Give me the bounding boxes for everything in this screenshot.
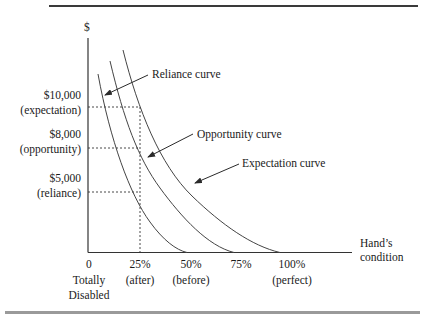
- expectation-arrow: [195, 164, 239, 183]
- y-tick-5000: $5,000 (reliance): [37, 171, 81, 201]
- x-tick-desc: Totally: [69, 273, 110, 289]
- x-tick-0: 0 Totally Disabled: [69, 257, 110, 304]
- reliance-arrow: [105, 75, 148, 95]
- x-tick-desc2: Disabled: [69, 288, 110, 304]
- x-tick-desc: (before): [172, 273, 209, 289]
- x-tick-value: 50%: [172, 257, 209, 273]
- y-tick-desc: (reliance): [37, 186, 81, 201]
- x-tick-desc: (perfect): [272, 273, 312, 289]
- chart-canvas: [0, 0, 436, 323]
- x-tick-desc: (after): [126, 273, 155, 289]
- x-tick-value: 100%: [272, 257, 312, 273]
- y-tick-value: $10,000: [20, 88, 81, 103]
- x-tick-value: 25%: [126, 257, 155, 273]
- y-tick-8000: $8,000 (opportunity): [20, 127, 81, 157]
- opportunity-curve: [110, 61, 234, 253]
- x-tick-50: 50% (before): [172, 257, 209, 288]
- x-tick-value: 0: [69, 257, 110, 273]
- x-tick-100: 100% (perfect): [272, 257, 312, 288]
- x-axis-title-line1: Hand’s: [360, 236, 403, 250]
- y-tick-10000: $10,000 (expectation): [20, 88, 81, 118]
- x-tick-25: 25% (after): [126, 257, 155, 288]
- y-tick-desc: (expectation): [20, 103, 81, 118]
- x-axis-title: Hand’s condition: [360, 236, 403, 264]
- y-axis-symbol: $: [84, 20, 90, 34]
- opportunity-arrow: [148, 134, 193, 157]
- y-tick-value: $8,000: [20, 127, 81, 142]
- opportunity-curve-label: Opportunity curve: [197, 127, 282, 141]
- x-axis-title-line2: condition: [360, 250, 403, 264]
- reliance-curve: [98, 74, 187, 253]
- x-tick-75: 75%: [230, 257, 251, 273]
- reliance-curve-label: Reliance curve: [152, 67, 221, 81]
- y-tick-value: $5,000: [37, 171, 81, 186]
- x-tick-value: 75%: [230, 257, 251, 273]
- y-tick-desc: (opportunity): [20, 142, 81, 157]
- expectation-curve-label: Expectation curve: [242, 156, 325, 170]
- bottom-rule: [5, 311, 420, 314]
